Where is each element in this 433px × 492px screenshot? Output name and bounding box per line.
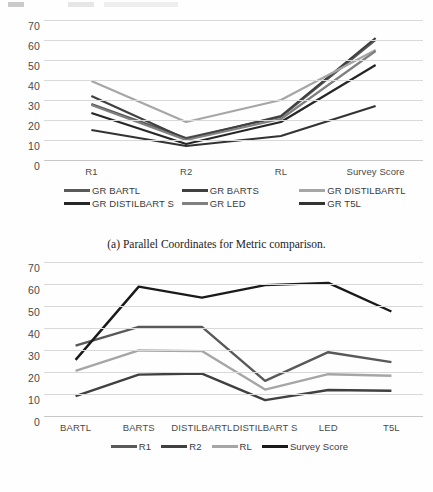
legend-swatch-icon [262,445,288,448]
gridline-40 [44,328,423,329]
x-tick-label-r2: R2 [180,166,192,177]
y-tick-label-40: 40 [0,328,40,340]
y-tick-label-20: 20 [0,372,40,384]
y-axis-b: 010203040506070 [0,262,40,416]
x-tick-label-t5l: T5L [383,422,400,433]
series-line-gr-barts [91,38,375,139]
legend-item-gr-led[interactable]: GR LED [182,198,300,209]
legend-label: RL [240,441,252,452]
legend-label: GR BARTL [92,185,140,196]
x-tick-label-distilbart-s: DISTILBART S [233,422,298,433]
gridline-70 [44,262,423,263]
gridline-70 [44,20,423,21]
y-axis-a: 010203040506070 [0,20,40,160]
gridline-40 [44,80,423,81]
gridline-50 [44,306,423,307]
chart-method-comparison: 010203040506070 BARTLBARTSDISTILBARTLDIS… [0,256,433,442]
legend-swatch-icon [161,445,187,448]
line-series-b [44,262,423,416]
legend-label: GR DISTILBARTL [327,185,405,196]
legend-item-gr-barts[interactable]: GR BARTS [182,185,300,196]
series-line-rl [76,350,392,389]
legend-swatch-icon [64,202,90,205]
figure-b: 010203040506070 BARTLBARTSDISTILBARTLDIS… [0,256,433,442]
gridline-20 [44,120,423,121]
x-tick-label-led: LED [319,422,338,433]
chart-metric-comparison: 010203040506070 R1R2RLSurvey Score [0,14,433,186]
figure-a: 010203040506070 R1R2RLSurvey Score GR BA… [0,14,433,186]
y-tick-label-60: 60 [0,284,40,296]
legend-label: GR BARTS [210,185,259,196]
y-tick-label-30: 30 [0,350,40,362]
page-top-artifact [8,2,178,7]
gridline-50 [44,60,423,61]
legend-swatch-icon [182,189,208,192]
legend-item-gr-distilbart-s[interactable]: GR DISTILBART S [64,198,182,209]
series-line-survey-score [76,283,392,360]
legend-item-survey-score[interactable]: Survey Score [262,441,348,452]
caption-a: (a) Parallel Coordinates for Metric comp… [0,238,433,250]
legend-item-r1[interactable]: R1 [111,441,151,452]
legend-swatch-icon [182,202,208,205]
line-series-a [44,20,423,160]
legend-item-gr-distilbartl[interactable]: GR DISTILBARTL [299,185,417,196]
x-tick-label-rl: RL [275,166,287,177]
legend-item-gr-bartl[interactable]: GR BARTL [64,185,182,196]
gridline-60 [44,284,423,285]
x-tick-label-barts: BARTS [123,422,155,433]
gridline-10 [44,394,423,395]
legend-swatch-icon [212,445,238,448]
y-tick-label-0: 0 [0,416,40,428]
gridline-30 [44,350,423,351]
series-line-gr-distilbart-s [91,65,375,144]
legend-label: GR T5L [327,198,361,209]
legend-item-gr-t5l[interactable]: GR T5L [299,198,417,209]
legend-swatch-icon [64,189,90,192]
y-tick-label-70: 70 [0,262,40,274]
y-tick-label-50: 50 [0,306,40,318]
plot-area-a [44,20,423,160]
x-axis-b: BARTLBARTSDISTILBARTLDISTILBART SLEDT5L [44,422,423,436]
x-tick-label-survey-score: Survey Score [347,166,405,177]
series-line-gr-bartl [91,40,375,138]
y-tick-label-10: 10 [0,140,40,152]
series-line-r2 [76,374,392,401]
legend-label: GR LED [210,198,246,209]
legend-b: R1R2RLSurvey Score [44,440,425,453]
x-tick-label-bartl: BARTL [60,422,91,433]
plot-area-b [44,262,423,416]
gridline-20 [44,372,423,373]
legend-item-r2[interactable]: R2 [161,441,201,452]
legend-a: GR BARTLGR BARTSGR DISTILBARTLGR DISTILB… [44,184,425,210]
legend-label: GR DISTILBART S [92,198,174,209]
legend-swatch-icon [299,202,325,205]
y-tick-label-50: 50 [0,60,40,72]
x-tick-label-r1: R1 [85,166,97,177]
gridline-10 [44,140,423,141]
legend-item-rl[interactable]: RL [212,441,252,452]
legend-label: Survey Score [290,441,348,452]
figure-page: 010203040506070 R1R2RLSurvey Score GR BA… [0,0,433,492]
y-tick-label-30: 30 [0,100,40,112]
y-tick-label-10: 10 [0,394,40,406]
y-tick-label-0: 0 [0,160,40,172]
x-axis-a: R1R2RLSurvey Score [44,166,423,180]
y-tick-label-60: 60 [0,40,40,52]
y-tick-label-40: 40 [0,80,40,92]
x-tick-label-distilbartl: DISTILBARTL [171,422,232,433]
gridline-60 [44,40,423,41]
gridline-0 [44,416,423,417]
y-tick-label-20: 20 [0,120,40,132]
gridline-0 [44,160,423,161]
legend-label: R1 [139,441,151,452]
legend-label: R2 [189,441,201,452]
legend-swatch-icon [299,189,325,192]
gridline-30 [44,100,423,101]
legend-swatch-icon [111,445,137,448]
y-tick-label-70: 70 [0,20,40,32]
